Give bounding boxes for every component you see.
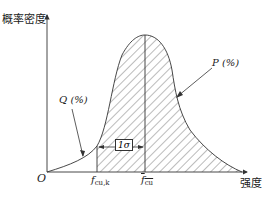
q-percent-label: Q (%) xyxy=(59,95,88,105)
fcu-mean-subscript: cu xyxy=(145,179,153,187)
fcuk-subscript: cu,k xyxy=(95,179,110,187)
fcuk-label: fcu,k xyxy=(91,175,110,187)
p-percent-label: P (%) xyxy=(212,58,239,68)
x-axis-label: 强度 xyxy=(240,178,262,189)
sigma-label: 1σ xyxy=(115,139,133,151)
p-leader-line xyxy=(178,68,212,96)
y-axis-label: 概率密度 xyxy=(2,14,46,25)
q-leader-line xyxy=(72,109,83,156)
origin-label: O xyxy=(37,173,46,184)
fcu-mean-label: fcu xyxy=(141,175,153,187)
probability-density-diagram xyxy=(0,0,277,197)
